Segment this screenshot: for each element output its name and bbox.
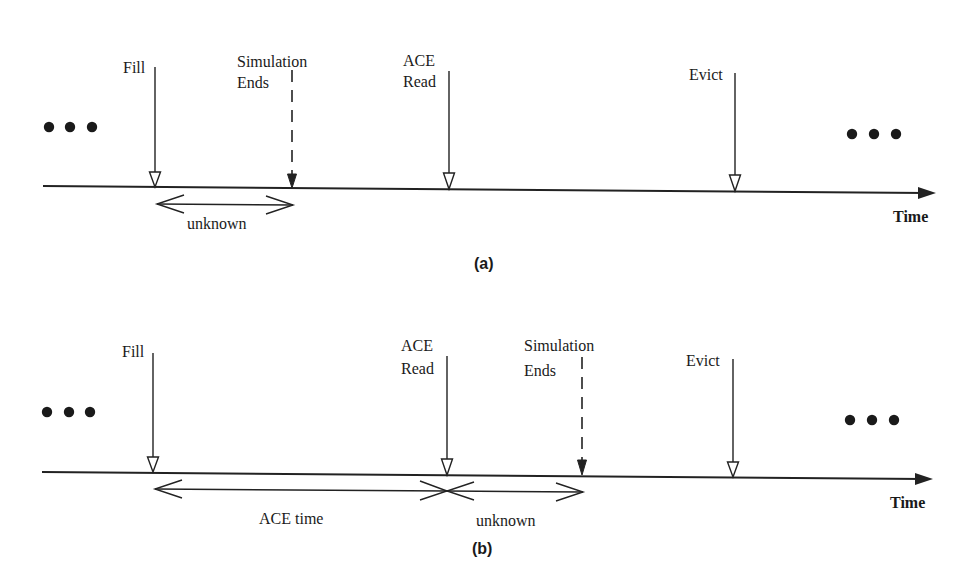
hollow-arrowhead-icon [148,457,159,472]
axis-label-time: Time [890,494,925,511]
hollow-arrowhead-icon [150,172,161,187]
event-evict: Evict [686,352,739,477]
axis-arrowhead-icon [918,187,936,199]
event-fill: Fill [123,59,161,187]
filled-arrowhead-icon [288,174,297,188]
interval-label-ace-time: ACE time [259,510,323,527]
interval-label-unknown: unknown [187,215,247,232]
panel-caption-b: (b) [472,540,492,557]
interval-unknown: unknown [157,195,293,232]
event-label-fill: Fill [122,343,145,360]
panel-b: Time Fill ACE Read Simulation Ends Evict [42,337,933,557]
event-ace-read: ACE Read [401,337,453,475]
event-label-ace: ACE [401,337,433,354]
event-evict: Evict [689,66,741,191]
time-axis [42,472,933,485]
event-ace-read: ACE Read [403,52,455,189]
interval-label-unknown: unknown [476,512,536,529]
event-label-fill: Fill [123,59,146,76]
interval-ace-time: ACE time [155,480,447,527]
ellipsis-left-icon [42,407,95,417]
event-label-simulation: Simulation [524,337,594,354]
event-label-read: Read [401,360,434,377]
event-label-ends: Ends [524,362,556,379]
hollow-arrowhead-icon [730,175,741,191]
timeline-diagram: Time Fill Simulation Ends ACE Read Evict [0,0,974,579]
event-simulation-ends: Simulation Ends [237,53,307,188]
event-label-ace: ACE [403,52,435,69]
panel-a: Time Fill Simulation Ends ACE Read Evict [43,52,936,272]
event-fill: Fill [122,343,159,472]
panel-caption-a: (a) [474,255,494,272]
event-label-ends: Ends [237,74,269,91]
ellipsis-right-icon [847,129,901,139]
hollow-arrowhead-icon [728,462,739,477]
event-simulation-ends: Simulation Ends [524,337,594,475]
event-label-evict: Evict [686,352,720,369]
ellipsis-left-icon [44,122,97,132]
interval-unknown: unknown [447,482,583,529]
hollow-arrowhead-icon [444,173,455,189]
event-label-read: Read [403,73,436,90]
filled-arrowhead-icon [578,460,587,475]
event-label-evict: Evict [689,66,723,83]
ellipsis-right-icon [845,415,899,425]
axis-label-time: Time [893,208,928,225]
axis-arrowhead-icon [915,473,933,485]
event-label-simulation: Simulation [237,53,307,70]
hollow-arrowhead-icon [442,459,453,475]
